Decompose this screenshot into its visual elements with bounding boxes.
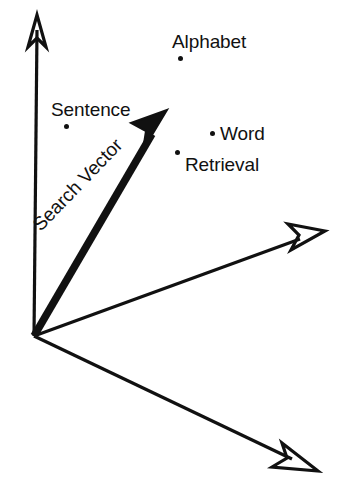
vector-space-figure: Alphabet Sentence Word Retrieval Search … bbox=[0, 0, 345, 492]
right-axis-line bbox=[34, 239, 300, 336]
data-point-label-retrieval: Retrieval bbox=[185, 155, 259, 174]
data-point-dot-alphabet bbox=[178, 56, 183, 61]
vertical-axis-line bbox=[34, 30, 37, 336]
lower-right-axis-line bbox=[34, 336, 292, 459]
data-point-dot-word bbox=[210, 131, 215, 136]
right-axis-arrowhead-icon bbox=[288, 224, 325, 250]
data-point-label-alphabet: Alphabet bbox=[172, 32, 246, 51]
data-point-dot-sentence bbox=[64, 124, 69, 129]
lower-right-axis-arrowhead-icon bbox=[272, 443, 318, 471]
vector-space-diagram bbox=[0, 0, 345, 492]
data-point-label-word: Word bbox=[220, 124, 265, 143]
data-point-dot-retrieval bbox=[175, 150, 180, 155]
data-point-label-sentence: Sentence bbox=[51, 100, 131, 119]
